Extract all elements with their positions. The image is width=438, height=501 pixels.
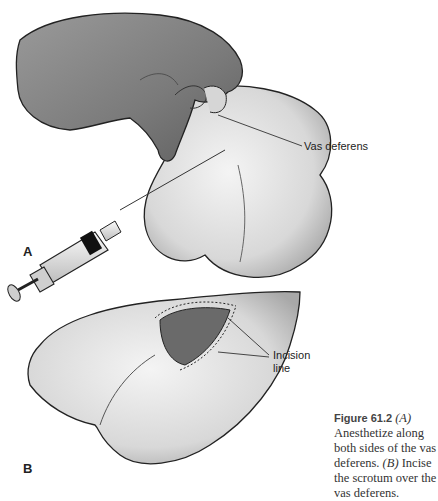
incision-line-label: Incision line: [273, 349, 310, 375]
vas-deferens-label: Vas deferens: [304, 140, 368, 153]
incision-label-line2: line: [273, 362, 310, 375]
caption-part-a-tag: (A): [395, 411, 411, 425]
scrotum-b: [28, 292, 300, 464]
panel-a-letter: A: [23, 244, 32, 259]
panel-b-letter: B: [23, 461, 32, 476]
caption-part-b-tag: (B): [383, 456, 399, 470]
figure-number: Figure 61.2: [334, 412, 392, 424]
figure-caption: Figure 61.2 (A) Anesthetize along both s…: [334, 411, 438, 501]
incision-label-line1: Incision: [273, 349, 310, 362]
